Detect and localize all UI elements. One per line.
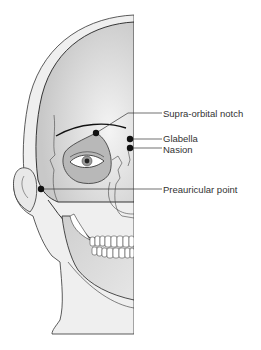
preauricular-point-marker xyxy=(38,186,44,192)
pupil xyxy=(85,159,90,164)
supra-orbital-notch-label: Supra-orbital notch xyxy=(163,108,243,119)
supra-orbital-notch-marker xyxy=(93,130,99,136)
preauricular-point-label: Preauricular point xyxy=(163,184,237,195)
glabella-label: Glabella xyxy=(163,133,198,144)
ear xyxy=(14,168,37,212)
nasion-marker xyxy=(127,145,133,151)
glabella-marker xyxy=(127,136,133,142)
nasion-label: Nasion xyxy=(163,144,193,155)
anatomical-figure xyxy=(0,0,261,350)
